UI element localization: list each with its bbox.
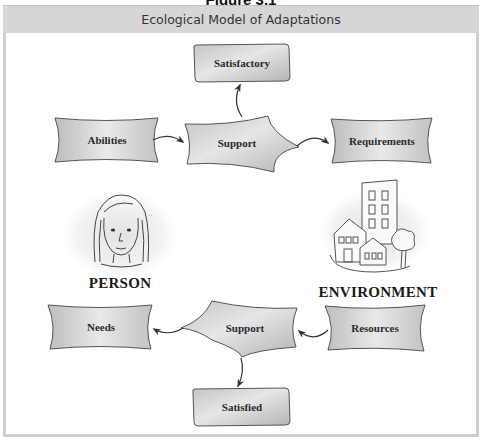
environment-label: ENVIRONMENT: [318, 284, 437, 300]
ecological-model-diagram: Satisfactory Abilities Support Requireme…: [0, 0, 482, 444]
node-requirements: Requirements: [331, 118, 432, 163]
arrow-support-to-satisfied: [238, 358, 242, 386]
node-satisfied: Satisfied: [193, 388, 290, 426]
environment-illustration: ENVIRONMENT: [315, 180, 438, 300]
node-support-top: Support: [185, 116, 299, 172]
node-resources: Resources: [325, 305, 425, 351]
left-eye: [111, 228, 115, 231]
node-satisfactory: Satisfactory: [194, 44, 290, 82]
arrow-support-to-requirements: [297, 138, 328, 146]
person-illustration: PERSON: [58, 187, 182, 291]
arrow-support-to-satisfactory: [236, 85, 242, 117]
right-eye: [127, 228, 131, 231]
arrow-support-to-needs: [154, 328, 183, 333]
arrow-resources-to-support: [299, 330, 328, 337]
node-abilities: Abilities: [55, 118, 158, 162]
node-support-bottom: Support: [181, 301, 297, 357]
arrow-abilities-to-support: [153, 136, 183, 142]
person-label: PERSON: [89, 275, 152, 291]
node-needs: Needs: [48, 305, 152, 349]
